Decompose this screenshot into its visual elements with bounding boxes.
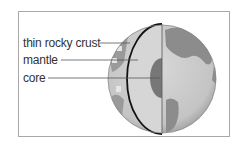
label-mantle: mantle <box>23 54 58 66</box>
label-core: core <box>23 72 46 84</box>
label-crust: thin rocky crust <box>23 37 101 49</box>
